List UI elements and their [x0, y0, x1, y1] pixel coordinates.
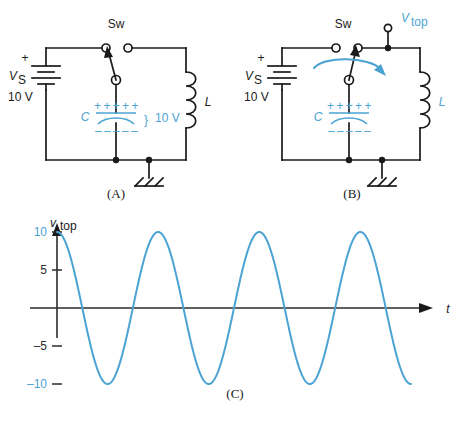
switch-assembly[interactable] — [102, 44, 132, 85]
switch-terminal-left[interactable] — [332, 44, 340, 52]
panel-a-circuit: + V S 10 V Sw C + + + + + – – – – – } 10… — [0, 0, 236, 200]
y-axis-label: v — [50, 216, 57, 230]
node-cap-bottom — [113, 157, 119, 163]
battery-plus-sign: + — [257, 51, 264, 65]
y-axis — [52, 223, 62, 338]
capacitor-minus-charges: – – – – – — [95, 124, 138, 138]
chassis-ground-icon — [368, 160, 396, 186]
inductor-label: L — [205, 95, 212, 109]
switch-terminal-right[interactable] — [124, 44, 132, 52]
capacitor-voltage-label: 10 V — [155, 111, 180, 125]
inductor-symbol — [420, 72, 430, 128]
node-cap-bottom — [346, 157, 352, 163]
switch-assembly[interactable] — [332, 44, 362, 85]
chassis-ground-icon — [135, 160, 163, 186]
node-vtop — [385, 45, 391, 51]
panel-a-caption: (A) — [86, 186, 146, 202]
battery-plus-sign: + — [21, 51, 28, 65]
inductor-symbol — [186, 72, 196, 128]
battery-label-sub: S — [254, 73, 262, 87]
panel-c-caption: (C) — [205, 386, 265, 402]
switch-label: Sw — [108, 17, 125, 31]
battery-symbol — [32, 66, 60, 90]
battery-label-sub: S — [18, 73, 26, 87]
battery-label: V — [9, 69, 18, 83]
battery-label: V — [245, 69, 254, 83]
battery-symbol — [268, 66, 296, 90]
panel-b-circuit: + V S 10 V Sw V top C + + + + + – – – – … — [236, 0, 471, 200]
capacitor-plus-charges: + + + + + — [94, 99, 138, 113]
y-tick-label: 10 — [34, 225, 48, 239]
y-tick-label: –10 — [27, 377, 47, 391]
switch-label: Sw — [335, 17, 352, 31]
vtop-label: V — [401, 11, 410, 25]
capacitor-label: C — [314, 110, 323, 124]
x-axis-label: t — [446, 302, 450, 316]
capacitor-brace: } — [144, 113, 148, 127]
battery-voltage: 10 V — [8, 90, 33, 104]
inductor-label: L — [439, 95, 446, 109]
vtop-terminal-circle[interactable] — [384, 24, 391, 31]
capacitor-minus-charges: – – – – – — [328, 124, 371, 138]
y-axis-label-sub: top — [60, 219, 77, 233]
capacitor-plus-charges: + + + + + — [327, 99, 371, 113]
y-tick-label: 5 — [40, 263, 47, 277]
panel-b-caption: (B) — [322, 186, 382, 202]
vtop-terminal[interactable] — [384, 24, 391, 51]
capacitor-label: C — [81, 110, 90, 124]
battery-voltage: 10 V — [244, 90, 269, 104]
vtop-label-sub: top — [411, 15, 428, 29]
x-axis — [30, 303, 433, 313]
panel-c-waveform-chart: v top t 105–5–10 — [0, 205, 471, 390]
y-tick-label: –5 — [34, 339, 48, 353]
